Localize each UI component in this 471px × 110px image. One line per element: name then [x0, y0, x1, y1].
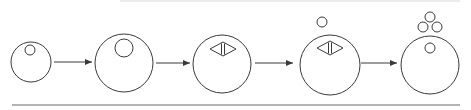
inner-circle — [25, 45, 35, 55]
cell-circle — [401, 36, 459, 94]
spindle-shape — [317, 41, 343, 55]
arrows-group — [54, 62, 397, 63]
cell-process-diagram — [0, 0, 471, 110]
cell-circle — [95, 34, 153, 92]
stages-group — [11, 12, 459, 95]
spindle-shape — [210, 42, 236, 56]
stage-2 — [95, 34, 153, 92]
inner-circle — [425, 43, 435, 53]
inner-circle — [115, 39, 133, 57]
outer-circle — [432, 22, 442, 32]
outer-circle — [425, 12, 435, 22]
cell-circle — [300, 35, 360, 95]
stage-1 — [11, 42, 51, 82]
stage-5 — [401, 12, 459, 94]
outer-circle — [418, 22, 428, 32]
outer-circle — [317, 17, 327, 27]
stage-4 — [300, 17, 360, 95]
stage-3 — [193, 35, 251, 93]
cell-circle — [11, 42, 51, 82]
